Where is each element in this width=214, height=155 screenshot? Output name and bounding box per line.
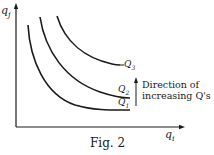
x-axis-label-main: q [165,128,172,141]
annotation-line-1: Direction of [142,79,211,90]
x-axis-arrow-icon [179,125,185,129]
direction-arrow-head-icon [134,77,138,83]
y-axis-label-sub: j [8,10,10,19]
curve-label-q1: Q1 [118,97,129,109]
curve-q1 [28,25,130,110]
curve-label-q3: Q3 [124,59,135,71]
figure-caption: Fig. 2 [90,136,125,150]
curve-q2 [40,17,130,98]
x-axis-label: qi [165,128,175,143]
isoquant-diagram [0,0,214,155]
y-axis-arrow-icon [14,3,18,9]
direction-annotation: Direction of increasing Q's [142,79,211,101]
y-axis-label-main: q [1,4,8,17]
curve-q3 [57,16,120,65]
annotation-line-2: increasing Q's [142,90,211,101]
curve-label-q2: Q2 [118,84,129,96]
x-axis-label-sub: i [172,134,175,143]
y-axis-label: qj [1,4,11,19]
